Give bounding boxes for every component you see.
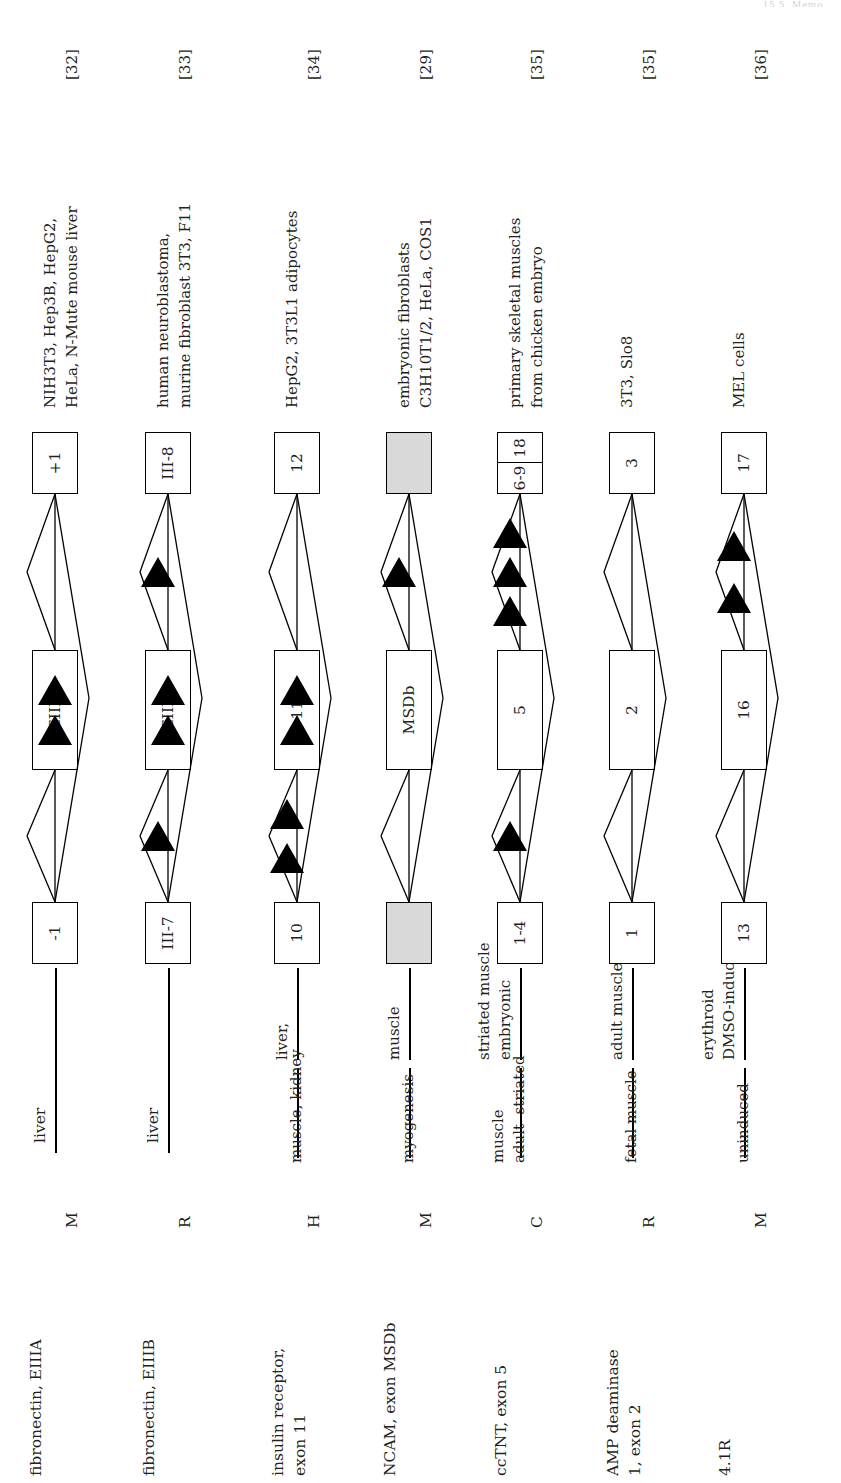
splice-wires <box>109 0 227 1483</box>
skipping-intron-line <box>520 698 554 902</box>
lower-intron-left-wedge <box>381 836 409 902</box>
skipping-intron-line <box>297 494 331 698</box>
skipping-intron-line <box>409 494 443 698</box>
lower-intron-left-wedge <box>492 770 520 836</box>
regulator-triangle-upper-intron <box>493 557 527 587</box>
regulator-triangle-upper-intron <box>493 596 527 626</box>
lower-intron-left-wedge <box>140 770 168 836</box>
figure-canvas: [32]NIH3T3, Hep3B, HepG2,HeLa, N-Mute mo… <box>0 0 841 1483</box>
gene-row-7: [36]MEL cellsM4.1RDMSO-inducederythroidu… <box>685 0 803 1483</box>
cassette-triangle-inside <box>151 675 185 705</box>
regulator-triangle-upper-intron <box>141 557 175 587</box>
upper-intron-left-wedge <box>381 494 409 572</box>
regulator-triangle-lower-intron <box>270 843 304 873</box>
lower-intron-left-wedge <box>381 770 409 836</box>
splice-wires <box>573 0 691 1483</box>
regulator-triangle-upper-intron <box>493 518 527 548</box>
gene-row-3: [34]HepG2, 3T3L1 adipocytesHinsulin rece… <box>238 0 356 1483</box>
splice-wires <box>350 0 468 1483</box>
gene-row-2: [33]human neuroblastoma,murine fibroblas… <box>109 0 227 1483</box>
cassette-triangle-inside <box>38 675 72 705</box>
cassette-triangle-inside <box>38 715 72 745</box>
lower-intron-left-wedge <box>716 770 744 836</box>
gene-row-5: [35]primary skeletal musclesfrom chicken… <box>461 0 579 1483</box>
upper-intron-left-wedge <box>140 494 168 572</box>
lower-intron-left-wedge <box>27 770 55 836</box>
skipping-intron-line <box>168 494 202 698</box>
regulator-triangle-lower-intron <box>493 821 527 851</box>
skipping-intron-line <box>744 494 778 698</box>
splice-wires <box>461 0 579 1483</box>
skipping-intron-line <box>55 494 89 698</box>
cassette-triangle-inside <box>280 675 314 705</box>
lower-intron-left-wedge <box>27 836 55 902</box>
splice-wires <box>685 0 803 1483</box>
lower-intron-left-wedge <box>604 770 632 836</box>
cassette-triangle-inside <box>151 715 185 745</box>
upper-intron-left-wedge <box>269 572 297 650</box>
splice-wires <box>238 0 356 1483</box>
upper-intron-left-wedge <box>27 572 55 650</box>
cassette-triangle-inside <box>280 715 314 745</box>
upper-intron-left-wedge <box>604 494 632 572</box>
skipping-intron-line <box>744 698 778 902</box>
lower-intron-left-wedge <box>604 836 632 902</box>
regulator-triangle-lower-intron <box>141 821 175 851</box>
gene-row-6: [35]3T3, Slo8RAMP deaminase1, exon 2adul… <box>573 0 691 1483</box>
skipping-intron-line <box>632 494 666 698</box>
regulator-triangle-upper-intron <box>717 531 751 561</box>
splice-wires <box>0 0 114 1483</box>
regulator-triangle-upper-intron <box>382 557 416 587</box>
upper-intron-left-wedge <box>604 572 632 650</box>
lower-intron-left-wedge <box>716 836 744 902</box>
gene-row-1: [32]NIH3T3, Hep3B, HepG2,HeLa, N-Mute mo… <box>0 0 114 1483</box>
gene-row-4: [29]embryonic fibroblastsC3H10T1/2, HeLa… <box>350 0 468 1483</box>
skipping-intron-line <box>409 698 443 902</box>
skipping-intron-line <box>520 494 554 698</box>
regulator-triangle-lower-intron <box>270 799 304 829</box>
upper-intron-left-wedge <box>27 494 55 572</box>
upper-intron-left-wedge <box>269 494 297 572</box>
skipping-intron-line <box>632 698 666 902</box>
